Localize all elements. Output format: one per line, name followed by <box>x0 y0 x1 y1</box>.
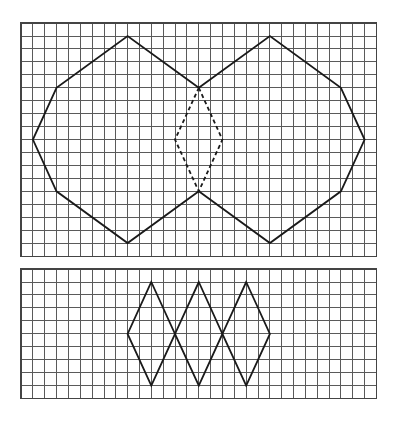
grid-lines <box>21 23 377 256</box>
grid-diagram <box>0 0 399 421</box>
bottom-grid-panel <box>21 269 377 399</box>
grid-lines <box>21 269 377 399</box>
top-grid-panel <box>21 23 377 256</box>
